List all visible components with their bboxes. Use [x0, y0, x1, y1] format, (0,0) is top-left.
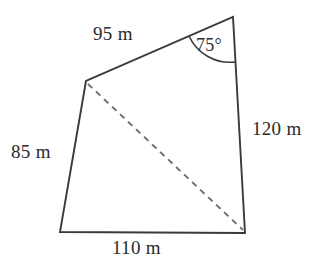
side-label-right: 120 m	[252, 119, 302, 138]
angle-label: 75°	[196, 36, 222, 54]
side-label-left: 85 m	[11, 142, 51, 161]
side-label-bottom: 110 m	[112, 238, 161, 257]
side-label-top: 95 m	[93, 24, 133, 43]
dashed-diagonal	[88, 84, 243, 230]
